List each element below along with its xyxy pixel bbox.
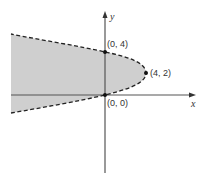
x-axis-label: x	[190, 98, 196, 109]
y-axis-label: y	[109, 11, 115, 22]
x-axis-arrow-icon	[189, 93, 196, 98]
label-point-4-2: (4, 2)	[150, 68, 171, 78]
point-0-0	[103, 93, 107, 97]
y-axis-arrow-icon	[103, 11, 108, 18]
label-point-0-4: (0, 4)	[107, 39, 128, 49]
point-4-2	[144, 71, 148, 75]
point-0-4	[103, 50, 107, 54]
label-point-0-0: (0, 0)	[107, 98, 128, 108]
graph: (0, 4) (4, 2) (0, 0) x y	[0, 0, 206, 181]
